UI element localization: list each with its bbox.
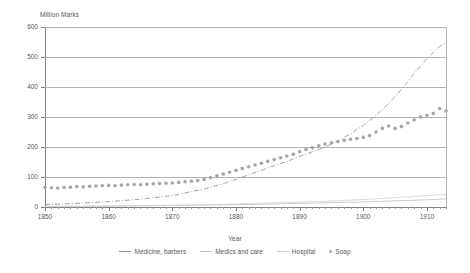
data-point [75, 185, 79, 189]
series-line [45, 194, 446, 206]
data-point [132, 183, 136, 187]
data-point [139, 183, 143, 187]
data-point [241, 167, 245, 171]
data-point [69, 185, 73, 189]
data-point [94, 184, 98, 188]
data-point [374, 130, 378, 134]
data-point [196, 179, 200, 183]
data-point [260, 161, 264, 165]
legend-label: Medics and care [215, 248, 263, 255]
data-point [183, 180, 187, 184]
data-series-layer [0, 0, 470, 273]
data-point [412, 118, 416, 122]
data-point [50, 186, 54, 190]
data-point [190, 179, 194, 183]
data-point [336, 140, 340, 144]
data-point [56, 186, 60, 190]
data-point [311, 146, 315, 150]
data-point [304, 148, 308, 152]
series-soap [43, 107, 448, 190]
data-point [113, 184, 117, 188]
data-point [285, 154, 289, 158]
data-point [419, 115, 423, 119]
data-point [431, 112, 435, 116]
legend-item-hospital[interactable]: Hospital [277, 248, 315, 255]
series-medics-and-care [45, 199, 446, 207]
data-point [291, 152, 295, 156]
data-point [158, 182, 162, 186]
data-point [88, 185, 92, 189]
data-point [400, 125, 404, 129]
legend-item-medics-and-care[interactable]: Medics and care [200, 248, 263, 255]
data-point [43, 185, 47, 189]
data-point [298, 150, 302, 154]
data-point [151, 182, 155, 186]
data-point [438, 107, 442, 111]
x-axis-title: Year [0, 235, 470, 242]
legend-label: Soap [335, 248, 350, 255]
data-point [349, 137, 353, 141]
data-point [177, 181, 181, 185]
chart-legend: Medicine, barbersMedics and careHospital… [0, 248, 470, 255]
data-point [221, 172, 225, 176]
data-point [145, 182, 149, 186]
data-point [228, 170, 232, 174]
data-point [266, 160, 270, 164]
data-point [342, 139, 346, 143]
data-point [100, 184, 104, 188]
legend-dot-marker-icon [329, 250, 332, 253]
data-point [368, 134, 372, 138]
series-line [45, 199, 446, 207]
data-point [361, 136, 365, 140]
chart-container: Million Marks 0100200300400500600 185018… [0, 0, 470, 273]
data-point [279, 156, 283, 160]
legend-item-soap[interactable]: Soap [329, 248, 350, 255]
data-point [62, 186, 66, 190]
legend-label: Hospital [292, 248, 315, 255]
series-hospital [45, 194, 446, 206]
legend-line-marker-icon [277, 251, 289, 252]
data-point [317, 144, 321, 148]
data-point [272, 158, 276, 162]
data-point [81, 185, 85, 189]
data-point [164, 182, 168, 186]
data-point [387, 124, 391, 128]
series-line [45, 43, 446, 205]
data-point [202, 178, 206, 182]
data-point [444, 109, 448, 113]
data-point [393, 127, 397, 131]
data-point [381, 127, 385, 131]
data-point [323, 142, 327, 146]
legend-label: Medicine, barbers [134, 248, 186, 255]
data-point [107, 184, 111, 188]
data-point [234, 169, 238, 173]
data-point [126, 183, 130, 187]
legend-item-medicine-barbers[interactable]: Medicine, barbers [119, 248, 186, 255]
data-point [253, 163, 257, 167]
legend-line-marker-icon [119, 251, 131, 252]
data-point [171, 181, 175, 185]
data-point [247, 165, 251, 169]
data-point [406, 121, 410, 125]
data-point [215, 174, 219, 178]
data-point [120, 183, 124, 187]
data-point [425, 113, 429, 117]
data-point [355, 137, 359, 141]
data-point [209, 176, 213, 180]
series-medicine-barbers [45, 43, 446, 205]
data-point [330, 141, 334, 145]
legend-line-marker-icon [200, 251, 212, 252]
